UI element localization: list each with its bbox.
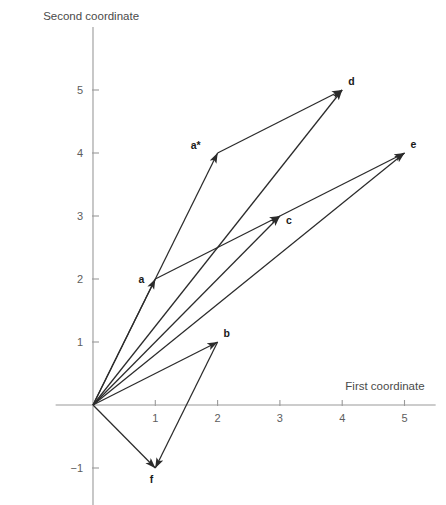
x-tick-label: 4 bbox=[339, 412, 345, 424]
x-axis-ticks: 12345 bbox=[152, 400, 407, 424]
point-label-d: d bbox=[348, 75, 354, 87]
x-tick-label: 2 bbox=[215, 412, 221, 424]
x-tick-3: 3 bbox=[277, 400, 283, 424]
y-axis-ticks: 12345−1 bbox=[70, 84, 99, 474]
y-tick-3: 3 bbox=[77, 210, 99, 222]
x-tick-label: 3 bbox=[277, 412, 283, 424]
x-tick-1: 1 bbox=[152, 400, 158, 424]
x-tick-2: 2 bbox=[215, 400, 221, 424]
y-tick-label: 5 bbox=[77, 84, 83, 96]
x-tick-4: 4 bbox=[339, 400, 345, 424]
vector-a-star-to-d bbox=[218, 90, 343, 153]
y-tick-label: 2 bbox=[77, 273, 83, 285]
point-label-a: a bbox=[138, 273, 144, 285]
point-label-e: e bbox=[411, 138, 417, 150]
y-tick-minus-1: −1 bbox=[70, 462, 99, 474]
vector-origin-to-c bbox=[93, 216, 280, 405]
point-label-c: c bbox=[286, 214, 292, 226]
y-tick-label: 4 bbox=[77, 147, 83, 159]
y-tick-4: 4 bbox=[77, 147, 99, 159]
y-tick-label: 3 bbox=[77, 210, 83, 222]
y-tick-5: 5 bbox=[77, 84, 99, 96]
point-label-b: b bbox=[224, 327, 230, 339]
vector-origin-to-b bbox=[93, 342, 218, 405]
x-tick-label: 1 bbox=[152, 412, 158, 424]
y-tick-2: 2 bbox=[77, 273, 99, 285]
y-axis-title: Second coordinate bbox=[43, 10, 139, 22]
point-label-a-star: a* bbox=[191, 139, 202, 151]
point-label-f: f bbox=[150, 473, 154, 485]
vector-c-to-e bbox=[280, 153, 405, 216]
axes-group bbox=[56, 27, 436, 505]
x-axis-title: First coordinate bbox=[345, 380, 424, 392]
y-tick-label: −1 bbox=[70, 462, 83, 474]
x-tick-label: 5 bbox=[401, 412, 407, 424]
x-tick-5: 5 bbox=[401, 400, 407, 424]
vector-plot: 12345 12345−1 First coordinate Second co… bbox=[0, 0, 446, 505]
y-tick-label: 1 bbox=[77, 336, 83, 348]
vector-origin-to-f bbox=[93, 405, 155, 468]
y-tick-1: 1 bbox=[77, 336, 99, 348]
